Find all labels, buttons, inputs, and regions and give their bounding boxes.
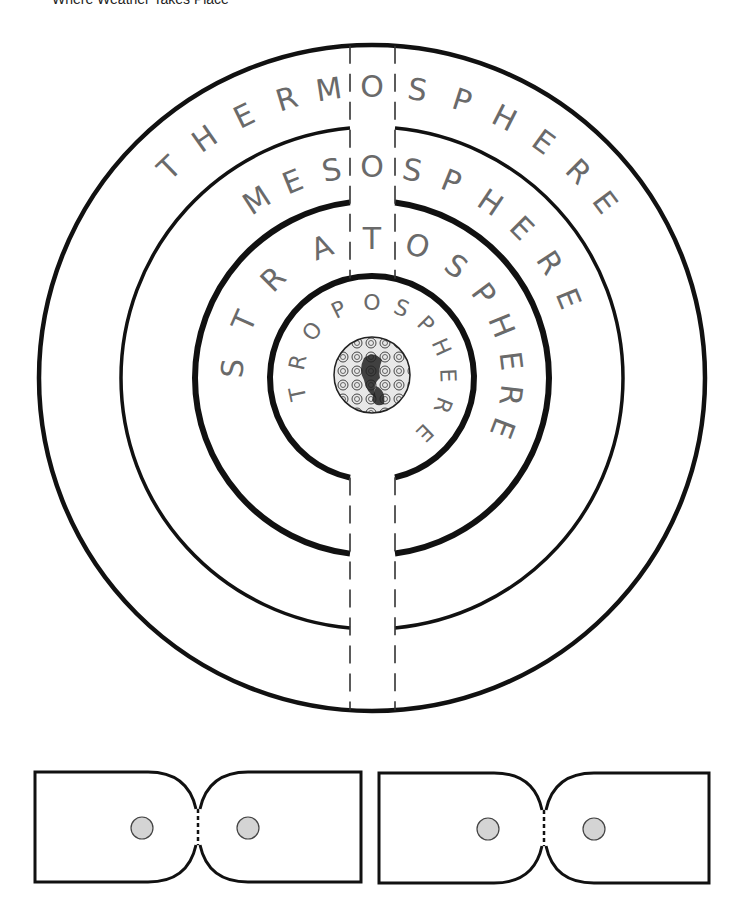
layer-letter: T bbox=[224, 305, 264, 338]
layer-letter: A bbox=[306, 227, 338, 267]
layer-letter: S bbox=[400, 151, 425, 189]
layer-letter: O bbox=[360, 149, 384, 184]
layer-letter: T bbox=[362, 221, 382, 256]
layer-letter: T bbox=[150, 149, 189, 188]
punch-hole-icon bbox=[477, 818, 499, 840]
layer-letter: E bbox=[483, 413, 522, 443]
layer-letter: O bbox=[297, 317, 327, 346]
layer-letter: R bbox=[272, 79, 302, 119]
punch-hole-icon bbox=[131, 817, 153, 839]
layer-letter: O bbox=[363, 290, 380, 315]
tab-left-outline bbox=[379, 773, 542, 883]
layer-letter: E bbox=[492, 349, 529, 372]
layer-letter: P bbox=[412, 311, 439, 338]
layer-letter: S bbox=[319, 151, 344, 189]
layer-letter: P bbox=[327, 296, 350, 324]
layer-letter: S bbox=[406, 71, 430, 109]
layer-letter: E bbox=[435, 368, 460, 383]
layer-letter: S bbox=[214, 358, 250, 379]
layer-letter: H bbox=[427, 334, 457, 359]
layer-letter: R bbox=[429, 394, 458, 417]
layer-letter: R bbox=[284, 352, 312, 372]
layer-letter: H bbox=[185, 118, 224, 160]
connector-tabs bbox=[35, 772, 709, 883]
layer-letter: E bbox=[503, 209, 541, 247]
layer-letter: T bbox=[284, 384, 312, 404]
layer-letter: E bbox=[411, 419, 438, 447]
earth-icon bbox=[334, 337, 410, 413]
layer-letter: H bbox=[487, 97, 523, 138]
layer-letter: E bbox=[277, 162, 308, 202]
layer-letter: H bbox=[471, 181, 509, 223]
layer-letter: R bbox=[253, 259, 292, 298]
layer-letter: O bbox=[360, 69, 384, 104]
layer-letter: P bbox=[436, 162, 466, 201]
layer-letter: R bbox=[529, 244, 570, 281]
punch-hole-icon bbox=[583, 818, 605, 840]
layer-letter: R bbox=[559, 152, 598, 191]
connector-tab-1 bbox=[35, 772, 361, 882]
layer-letter: E bbox=[526, 122, 562, 161]
tab-right-outline bbox=[546, 773, 709, 883]
connector-tab-2 bbox=[379, 773, 709, 883]
layer-letter: S bbox=[438, 246, 474, 285]
layer-letter: H bbox=[481, 309, 522, 343]
layer-letter: E bbox=[586, 184, 625, 220]
layer-letter: P bbox=[448, 81, 476, 120]
layer-letter: E bbox=[228, 96, 260, 136]
tab-left-outline bbox=[35, 772, 196, 882]
layer-letter: S bbox=[390, 294, 413, 322]
label-thermosphere: THERMOSPHERE bbox=[150, 69, 625, 221]
layer-letter: M bbox=[313, 70, 344, 108]
layer-letter: R bbox=[492, 383, 529, 408]
layer-letter: P bbox=[464, 276, 503, 312]
layer-letter: E bbox=[549, 283, 589, 314]
layer-letter: M bbox=[236, 178, 277, 221]
tab-right-outline bbox=[200, 772, 361, 882]
punch-hole-icon bbox=[237, 817, 259, 839]
layer-letter: O bbox=[401, 225, 435, 266]
atmosphere-wheel: THERMOSPHEREMESOSPHERESTRATOSPHERETROPOS… bbox=[0, 0, 734, 914]
